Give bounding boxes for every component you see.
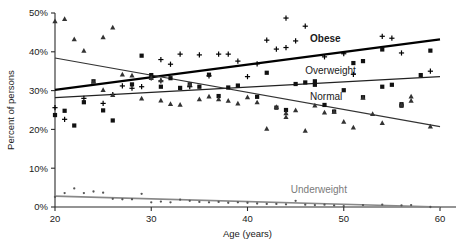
data-point-underweight — [160, 200, 162, 202]
y-tick-label-30: 30% — [29, 85, 49, 96]
data-point-obese — [293, 38, 298, 43]
series-label-obese: Obese — [310, 33, 341, 44]
data-point-normal — [264, 126, 269, 131]
data-point-underweight — [285, 203, 287, 205]
data-point-overweight — [361, 59, 365, 63]
data-point-normal — [370, 111, 375, 116]
data-point-overweight — [226, 85, 230, 89]
data-point-normal — [62, 16, 67, 21]
data-point-normal — [120, 72, 125, 77]
data-point-normal — [226, 98, 231, 103]
data-point-underweight — [362, 204, 364, 206]
series-label-overweight: Overweight — [305, 65, 356, 76]
x-tick-label-40: 40 — [242, 213, 253, 224]
data-point-overweight — [265, 71, 269, 75]
data-point-normal — [409, 98, 414, 103]
data-point-normal — [380, 120, 385, 125]
data-point-obese — [264, 38, 269, 43]
data-point-overweight — [63, 109, 67, 113]
data-point-obese — [303, 24, 308, 29]
data-point-overweight — [207, 73, 211, 77]
data-point-underweight — [429, 206, 431, 208]
x-axis-title: Age (years) — [223, 228, 272, 239]
data-point-normal — [110, 25, 115, 30]
y-tick-label-10: 10% — [29, 163, 49, 174]
data-point-normal — [81, 48, 86, 53]
data-point-overweight — [390, 83, 394, 87]
data-point-underweight — [121, 198, 123, 200]
y-tick-label-20: 20% — [29, 124, 49, 135]
x-tick-label-20: 20 — [50, 213, 61, 224]
data-point-underweight — [208, 201, 210, 203]
data-point-overweight — [313, 83, 317, 87]
y-tick-label-0: 0% — [34, 201, 48, 212]
data-point-obese — [235, 59, 240, 64]
data-point-normal — [129, 73, 134, 78]
data-point-normal — [101, 87, 106, 92]
data-point-underweight — [169, 201, 171, 203]
y-tick-label-50: 50% — [29, 7, 49, 18]
data-point-underweight — [237, 201, 239, 203]
data-point-obese — [62, 117, 67, 122]
series-label-underweight: Underweight — [291, 184, 347, 195]
data-point-underweight — [343, 205, 345, 207]
data-point-obese — [283, 15, 288, 20]
data-point-obese — [197, 52, 202, 57]
data-point-underweight — [179, 198, 181, 200]
data-point-underweight — [256, 202, 258, 204]
data-point-obese — [120, 83, 125, 88]
data-point-normal — [245, 95, 250, 100]
y-tick-label-40: 40% — [29, 46, 49, 57]
data-points-layer — [52, 15, 433, 208]
data-point-overweight — [111, 118, 115, 122]
data-point-obese — [389, 36, 394, 41]
data-point-underweight — [400, 204, 402, 206]
data-point-normal — [206, 94, 211, 99]
data-point-overweight — [159, 85, 163, 89]
data-point-normal — [139, 96, 144, 101]
data-point-normal — [235, 101, 240, 106]
scatter-plot: 0%10%20%30%40%50%2030405060 ObeseOverwei… — [0, 0, 462, 241]
data-point-underweight — [73, 187, 75, 189]
data-point-obese — [52, 105, 57, 110]
data-point-obese — [245, 74, 250, 79]
axes-layer — [55, 13, 456, 207]
data-point-underweight — [381, 204, 383, 206]
data-point-overweight — [255, 95, 259, 99]
data-point-overweight — [428, 49, 432, 53]
data-point-underweight — [54, 196, 56, 198]
x-tick-label-30: 30 — [146, 213, 157, 224]
data-point-underweight — [227, 202, 229, 204]
data-point-underweight — [333, 204, 335, 206]
data-point-normal — [168, 101, 173, 106]
y-axis-title: Percent of persons — [5, 70, 16, 150]
data-point-underweight — [131, 198, 133, 200]
data-point-normal — [303, 128, 308, 133]
data-point-obese — [283, 45, 288, 50]
data-point-overweight — [140, 54, 144, 58]
data-point-overweight — [419, 73, 423, 77]
data-point-overweight — [197, 85, 201, 89]
data-point-underweight — [304, 204, 306, 206]
data-point-underweight — [140, 193, 142, 195]
data-point-overweight — [130, 82, 134, 86]
data-point-underweight — [275, 203, 277, 205]
data-point-overweight — [82, 100, 86, 104]
series-label-normal: Normal — [310, 91, 342, 102]
x-tick-label-50: 50 — [338, 213, 349, 224]
data-point-normal — [409, 94, 414, 99]
data-point-obese — [399, 50, 404, 55]
data-point-normal — [72, 36, 77, 41]
data-point-overweight — [72, 123, 76, 127]
data-point-obese — [158, 57, 163, 62]
data-point-overweight — [380, 47, 384, 51]
data-point-obese — [216, 52, 221, 57]
data-point-obese — [226, 52, 231, 57]
data-point-overweight — [53, 113, 57, 117]
data-point-normal — [293, 107, 298, 112]
data-point-overweight — [303, 80, 307, 84]
data-point-underweight — [217, 201, 219, 203]
axis-ticks-layer: 0%10%20%30%40%50%2030405060 — [29, 7, 445, 224]
data-point-normal — [178, 102, 183, 107]
x-tick-label-60: 60 — [435, 213, 446, 224]
